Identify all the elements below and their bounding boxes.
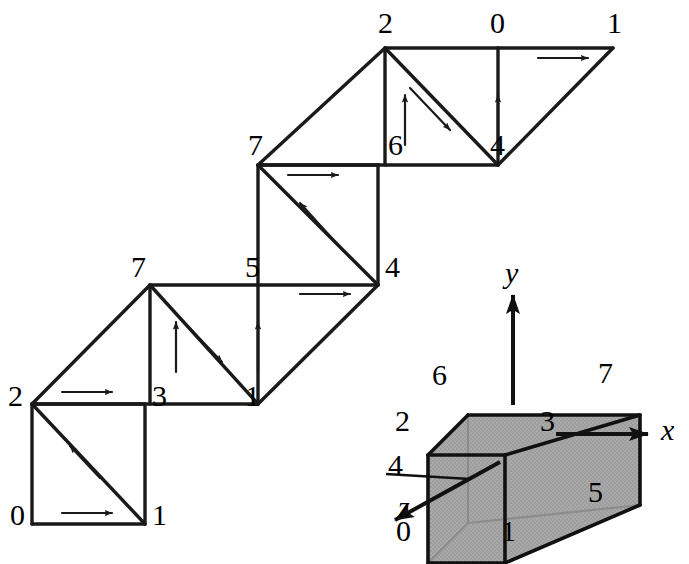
- axis-label-x: x: [661, 415, 674, 445]
- axis-label-y: y: [505, 258, 518, 288]
- strip-vertex-label-0b: 0: [490, 8, 505, 38]
- strip-vertex-label-4b: 4: [490, 130, 505, 160]
- arrow-7-1m: [182, 320, 222, 362]
- arrow-1-2: [70, 446, 100, 478]
- strip-vertex-label-6: 6: [388, 130, 403, 160]
- cube-silhouette: [428, 415, 640, 563]
- cube-drawing: [386, 295, 648, 563]
- triangle-strip-cube-figure: 0 1 2 3 7 5 1 4 7 6 2 0 1 4 0 1 2 3 4 5 …: [0, 0, 689, 564]
- strip-vertex-label-7b: 7: [248, 130, 263, 160]
- strip-vertex-label-3: 3: [152, 381, 167, 411]
- strip-diagonal-1-2: [32, 404, 145, 524]
- cube-vertex-label-4: 4: [388, 450, 403, 480]
- strip-vertex-label-1c: 1: [607, 8, 622, 38]
- cube-vertex-label-3: 3: [540, 406, 555, 436]
- figure-linework: [0, 0, 689, 564]
- strip-edge-7u-2t: [258, 48, 385, 165]
- axis-label-z: z: [398, 492, 410, 522]
- cube-vertex-label-5: 5: [588, 477, 603, 507]
- strip-edge-4t-1t: [498, 48, 613, 165]
- strip-vertex-label-7a: 7: [131, 252, 146, 282]
- strip-edge-2-7: [32, 285, 150, 404]
- strip-vertex-label-2b: 2: [378, 8, 393, 38]
- arrow-4m-7u: [300, 203, 338, 245]
- strip-vertex-label-1: 1: [152, 500, 167, 530]
- strip-vertex-label-5: 5: [245, 252, 260, 282]
- strip-edge-1m-4m: [258, 285, 378, 404]
- strip-vertex-label-1b: 1: [245, 381, 260, 411]
- strip-vertex-label-2: 2: [8, 381, 23, 411]
- cube-vertex-label-7: 7: [598, 358, 613, 388]
- cube-vertex-label-1: 1: [501, 516, 516, 546]
- strip-vertex-label-0: 0: [10, 500, 25, 530]
- cube-vertex-label-2: 2: [395, 406, 410, 436]
- strip-diagonal-4m-7u: [258, 165, 378, 285]
- cube-vertex-label-6: 6: [432, 360, 447, 390]
- strip-vertex-label-4a: 4: [385, 252, 400, 282]
